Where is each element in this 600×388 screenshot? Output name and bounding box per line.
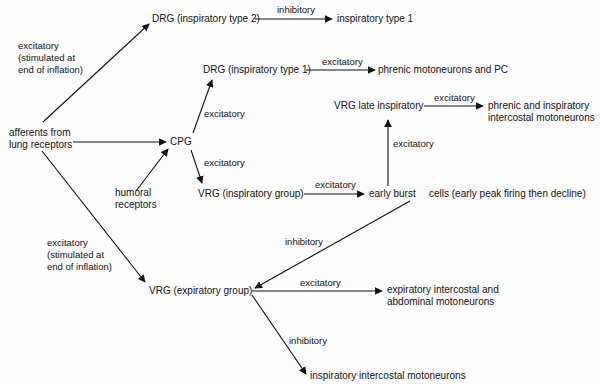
edge-label-drg2-to-type1: inhibitory [277,4,315,16]
edge-label-afferents-to-vrgexp: excitatory (stimulated at end of inflati… [47,237,112,273]
edge-label-line: excitatory [47,237,112,249]
node-drg-inspiratory-type2: DRG (inspiratory type 2) [152,13,260,25]
node-humoral-line2: receptors [115,199,157,211]
edge-label-cpg-to-drg1: excitatory [204,108,245,120]
node-afferents-lung-receptors: afferents from lung receptors [9,127,72,151]
node-phrenic-intercostal-line1: phrenic and inspiratory [488,100,595,112]
node-early-burst: early burst [369,188,416,200]
edge-label-early-to-vrgexp: inhibitory [285,236,323,248]
node-vrg-late-inspiratory: VRG late inspiratory [334,100,423,112]
node-inspiratory-intercostal-motoneurons: inspiratory intercostal motoneurons [310,370,466,382]
node-humoral-receptors: humoral receptors [115,187,157,211]
edge-label-early-to-vrglate: excitatory [393,138,434,150]
node-vrg-inspiratory-group: VRG (inspiratory group) [198,188,304,200]
respiratory-control-diagram: afferents from lung receptors humoral re… [0,0,600,388]
edge-label-vrginsp-to-early: excitatory [315,179,356,191]
node-cpg: CPG [170,136,192,148]
edge-label-line: (stimulated at [18,52,83,64]
edge-label-line: (stimulated at [47,249,112,261]
node-exp-moto-line1: expiratory intercostal and [387,284,499,296]
node-inspiratory-type1: inspiratory type 1 [337,13,413,25]
edge-label-vrgexp-to-expmoto: excitatory [300,277,341,289]
edge-label-line: excitatory [18,40,83,52]
node-phrenic-intercostal-line2: intercostal motoneurons [488,112,595,124]
node-afferents-line2: lung receptors [9,139,72,151]
node-expiratory-abdominal-motoneurons: expiratory intercostal and abdominal mot… [387,284,499,308]
edge-label-cpg-to-vrginsp: excitatory [204,157,245,169]
edge-label-vrgexp-to-inspmoto: inhibitory [289,335,327,347]
node-vrg-expiratory-group: VRG (expiratory group) [149,285,252,297]
node-phrenic-intercostal-motoneurons: phrenic and inspiratory intercostal moto… [488,100,595,124]
edge-label-vrglate-to-phrenic: excitatory [434,92,475,104]
node-phrenic-motoneurons-pc: phrenic motoneurons and PC [378,64,508,76]
edge-label-afferents-to-drg2: excitatory (stimulated at end of inflati… [18,40,83,76]
node-early-burst-description: cells (early peak firing then decline) [429,188,586,200]
edge-label-line: end of inflation) [18,64,83,76]
node-humoral-line1: humoral [115,187,157,199]
node-afferents-line1: afferents from [9,127,72,139]
node-exp-moto-line2: abdominal motoneurons [387,296,499,308]
edge-label-drg1-to-phrenic: excitatory [322,56,363,68]
edge-label-line: end of inflation) [47,261,112,273]
node-drg-inspiratory-type1: DRG (inspiratory type 1) [203,64,311,76]
